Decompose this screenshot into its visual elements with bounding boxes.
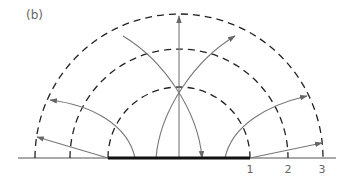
tick-label-2: 2 <box>285 163 292 176</box>
tick-label-3: 3 <box>319 163 326 176</box>
tick-label-1: 1 <box>247 163 254 176</box>
field-line-left-3 <box>37 137 108 158</box>
figure-label: (b) <box>26 8 43 22</box>
field-diagram: (b) 1 2 3 <box>0 0 352 185</box>
field-line-right-1 <box>156 36 235 158</box>
field-line-right-3 <box>250 143 322 158</box>
field-line-left-1 <box>123 36 202 158</box>
field-lines <box>37 16 322 158</box>
field-line-left-2 <box>50 100 135 158</box>
